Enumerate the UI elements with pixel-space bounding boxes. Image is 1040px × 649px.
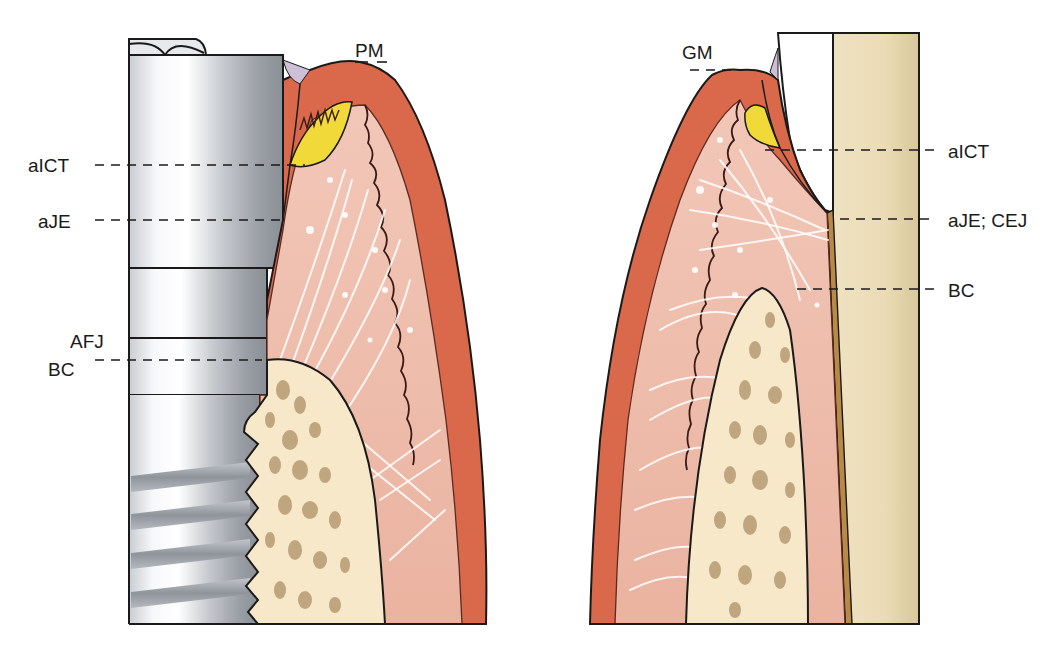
implant-panel: PM aICT aJE AFJ BC	[28, 39, 487, 625]
bc-label-left: BC	[48, 359, 74, 380]
implant-abutment	[129, 55, 283, 268]
tooth-panel: GM aICT aJE; CEJ BC	[590, 33, 1027, 624]
bc-label-right: BC	[948, 280, 974, 301]
aje-label-left: aJE	[38, 211, 71, 232]
aict-label-right: aICT	[948, 141, 990, 162]
aict-label-left: aICT	[28, 155, 70, 176]
dental-anatomy-diagram: PM aICT aJE AFJ BC	[0, 0, 1040, 649]
implant-collar	[129, 268, 267, 395]
gm-label: GM	[682, 42, 713, 63]
aje-cej-label: aJE; CEJ	[948, 210, 1027, 231]
pm-label: PM	[355, 40, 384, 61]
afj-label: AFJ	[70, 331, 104, 352]
implant-cap	[129, 39, 206, 55]
